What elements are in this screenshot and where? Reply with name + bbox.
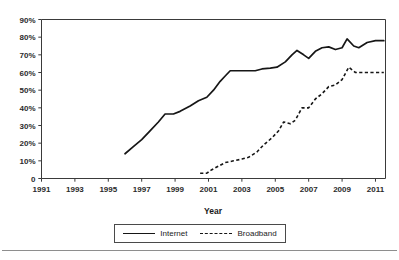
x-tick-label: 1995: [99, 185, 117, 194]
plot-axis-frame: [42, 20, 386, 179]
x-tick-label: 2001: [200, 185, 218, 194]
y-tick-label: 70%: [19, 51, 35, 60]
x-axis-ticks: 1991199319951997199920012003200520072009…: [33, 179, 385, 194]
y-tick-label: 50%: [19, 86, 35, 95]
legend-entry-internet: Internet: [123, 229, 187, 238]
series-line-internet: [125, 39, 384, 154]
legend-swatch-broadband-icon: [200, 233, 232, 234]
x-tick-label: 1999: [166, 185, 184, 194]
chart-figure: 010%20%30%40%50%60%70%80%90% 19911993199…: [0, 0, 399, 260]
x-tick-label: 2007: [300, 185, 318, 194]
legend-swatch-internet-icon: [123, 233, 155, 235]
y-tick-label: 60%: [19, 69, 35, 78]
chart-legend: Internet Broadband: [114, 224, 286, 243]
x-tick-label: 2005: [266, 185, 284, 194]
footer-divider: [2, 250, 397, 251]
y-tick-label: 90%: [19, 16, 35, 25]
x-tick-label: 1993: [66, 185, 84, 194]
x-tick-label: 2003: [233, 185, 251, 194]
legend-entry-broadband: Broadband: [200, 229, 276, 238]
x-tick-label: 1991: [33, 185, 51, 194]
x-tick-label: 1997: [133, 185, 151, 194]
x-tick-label: 2009: [333, 185, 351, 194]
x-tick-label: 2011: [367, 185, 385, 194]
y-tick-label: 80%: [19, 33, 35, 42]
legend-label-internet: Internet: [160, 229, 187, 238]
legend-label-broadband: Broadband: [237, 229, 276, 238]
series-line-broadband: [200, 67, 384, 173]
line-chart-canvas: 010%20%30%40%50%60%70%80%90% 19911993199…: [0, 0, 399, 260]
y-tick-label: 0: [31, 175, 36, 184]
y-tick-label: 30%: [19, 122, 35, 131]
x-axis-title: Year: [204, 206, 223, 216]
y-tick-label: 40%: [19, 104, 35, 113]
y-tick-label: 20%: [19, 139, 35, 148]
y-axis-ticks: 010%20%30%40%50%60%70%80%90%: [19, 16, 41, 184]
y-tick-label: 10%: [19, 157, 35, 166]
